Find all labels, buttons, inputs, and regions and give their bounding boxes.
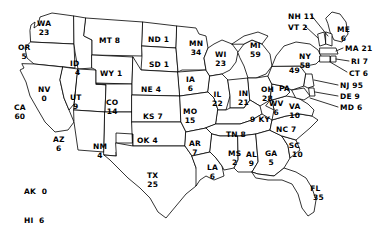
callout-label-vt: VT 2 — [288, 24, 308, 33]
state-code: NC — [276, 125, 288, 134]
state-label-ia: IA6 — [186, 76, 195, 93]
state-value: 4 — [75, 68, 80, 77]
state-label-nd: ND 1 — [148, 36, 169, 45]
state-label-la: LA6 — [207, 164, 218, 181]
callout-label-nh: NH 11 — [288, 13, 315, 22]
state-value: 7 — [291, 125, 296, 134]
state-label-al: AL9 — [246, 151, 257, 168]
state-code: OK — [137, 136, 150, 145]
state-label-tn: TN 8 — [226, 131, 246, 140]
state-label-id: ID4 — [69, 60, 80, 77]
state-shape-ri — [331, 56, 336, 62]
state-value: 25 — [147, 180, 158, 189]
callout-label-me: ME6 — [337, 26, 350, 43]
state-shape-ny — [272, 42, 322, 66]
state-label-ok: OK 4 — [137, 137, 158, 146]
state-label-mi: MI59 — [250, 42, 261, 59]
state-value: 0 — [42, 94, 47, 103]
state-label-ut: UT9 — [70, 94, 82, 111]
state-label-va: VA10 — [289, 103, 301, 120]
state-label-az: AZ6 — [53, 136, 65, 153]
state-shape-ma — [320, 48, 338, 54]
state-value: 58 — [300, 61, 311, 70]
state-value: 7 — [192, 148, 197, 157]
state-code: RI — [351, 57, 360, 66]
state-value: 8 — [115, 36, 120, 45]
state-code: CT — [349, 69, 360, 78]
state-value: 1 — [164, 60, 169, 69]
us-choropleth-map: WA23OR5ID4MT 8ND 1SD 1MN34WI23MI59WY 1NE… — [0, 0, 383, 231]
state-label-ca: CA60 — [14, 104, 26, 121]
state-code: PA — [279, 84, 290, 93]
state-code: MD — [340, 103, 354, 112]
state-value: 6 — [56, 144, 61, 153]
state-value: 4 — [156, 85, 161, 94]
state-label-nv: NV0 — [38, 86, 50, 103]
state-label-wy: WY 1 — [100, 70, 122, 79]
state-value: 9 — [250, 115, 255, 124]
state-shape-nj — [304, 74, 314, 88]
state-value: 15 — [185, 116, 196, 125]
state-label-or: OR5 — [18, 44, 31, 61]
state-value: 9 — [73, 102, 78, 111]
state-code: VT — [288, 23, 299, 32]
state-code: NE — [141, 85, 153, 94]
state-value: 21 — [238, 98, 249, 107]
state-shape-ct — [320, 56, 330, 62]
leader-line-ri — [336, 59, 349, 61]
state-value: 23 — [39, 28, 50, 37]
state-value: 6 — [341, 34, 346, 43]
state-value: 10 — [289, 111, 300, 120]
leader-line-de — [315, 92, 338, 96]
legend-line-hi: HI 6 — [24, 216, 87, 226]
state-value: 6 — [363, 69, 368, 78]
state-label-il: IL22 — [212, 91, 223, 108]
state-label-mn: MN34 — [189, 40, 203, 57]
state-value: 2 — [302, 23, 307, 32]
state-value: 7 — [157, 112, 162, 121]
leader-line-md — [310, 98, 338, 107]
state-value: 6 — [210, 172, 215, 181]
state-value: 22 — [212, 99, 223, 108]
state-label-ks: KS 7 — [143, 113, 163, 122]
state-label-ne: NE 4 — [141, 86, 161, 95]
state-label-in: IN21 — [238, 90, 249, 107]
state-label-pa: 49PA — [279, 76, 290, 93]
state-value: 7 — [363, 57, 368, 66]
state-value: 4 — [152, 136, 157, 145]
state-label-tx: TX25 — [147, 172, 158, 189]
state-value: 8 — [241, 130, 246, 139]
state-value: 11 — [304, 12, 315, 21]
state-value: 1 — [117, 69, 122, 78]
state-label-nm: NM4 — [93, 143, 107, 160]
state-label-nc: NC 7 — [276, 126, 296, 135]
state-value: 2 — [232, 158, 237, 167]
leader-line-nj — [314, 80, 338, 85]
state-value: 6 — [274, 108, 279, 117]
callout-label-nj: NJ 95 — [340, 82, 363, 91]
state-value: 1 — [164, 35, 169, 44]
state-code: ND — [148, 35, 161, 44]
state-value: 10 — [292, 150, 303, 159]
state-label-ny: NY58 — [299, 53, 311, 70]
state-label-ga: GA5 — [265, 150, 277, 167]
state-label-ms: MS2 — [228, 150, 241, 167]
state-value: 4 — [97, 151, 102, 160]
leader-line-ct — [330, 62, 347, 72]
state-label-ky: 9KY — [250, 116, 270, 125]
state-value: 9 — [249, 159, 254, 168]
state-value: 14 — [107, 107, 118, 116]
state-value: 5 — [268, 158, 273, 167]
state-label-co: CO14 — [106, 99, 118, 116]
callout-label-ma: MA 21 — [345, 45, 372, 54]
state-shape-de — [309, 88, 315, 96]
state-code: NJ — [340, 81, 349, 90]
offmap-legend: AK 0 HI 6 Outside US 12 — [24, 168, 87, 231]
legend-line-ak: AK 0 — [24, 187, 87, 197]
state-value: 34 — [191, 48, 202, 57]
state-label-fl: FL35 — [307, 185, 324, 202]
callout-label-md: MD 6 — [340, 104, 362, 113]
state-value: 35 — [313, 193, 324, 202]
state-label-sd: SD 1 — [149, 61, 169, 70]
state-label-wv: WV6 — [269, 100, 283, 117]
